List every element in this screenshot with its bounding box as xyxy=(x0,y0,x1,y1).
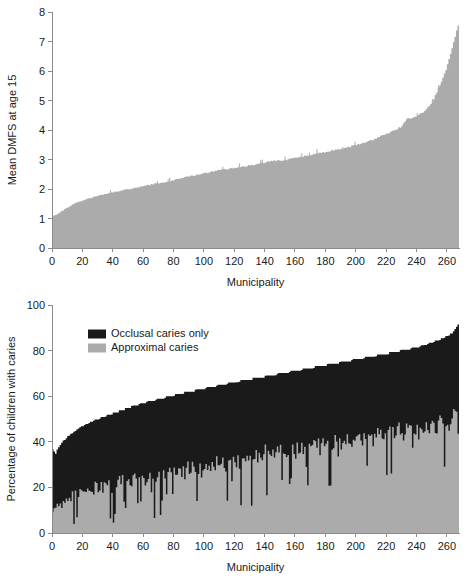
x-tick-label: 80 xyxy=(167,540,179,552)
x-tick-label: 240 xyxy=(407,255,425,267)
x-tick-label: 100 xyxy=(195,255,213,267)
x-tick-label: 20 xyxy=(76,255,88,267)
x-tick-label: 80 xyxy=(167,255,179,267)
legend-label-occlusal: Occlusal caries only xyxy=(111,327,209,339)
chart-legend: Occlusal caries onlyApproximal caries xyxy=(88,327,209,353)
x-tick-label: 220 xyxy=(377,540,395,552)
x-tick-label: 100 xyxy=(195,540,213,552)
y-tick-label: 6 xyxy=(39,65,45,77)
y-tick-label: 0 xyxy=(39,242,45,254)
x-tick-label: 0 xyxy=(49,255,55,267)
x-tick-label: 200 xyxy=(347,255,365,267)
y-tick-label: 20 xyxy=(33,481,45,493)
dmfs-area-series xyxy=(52,26,459,248)
x-tick-label: 200 xyxy=(347,540,365,552)
x-tick-label: 0 xyxy=(49,540,55,552)
x-tick-label: 220 xyxy=(377,255,395,267)
y-tick-label: 100 xyxy=(27,299,45,311)
x-tick-label: 160 xyxy=(286,540,304,552)
x-tick-label: 140 xyxy=(255,255,273,267)
y-tick-label: 5 xyxy=(39,95,45,107)
caries-chart-figure: 0204060801000204060801001201401601802002… xyxy=(0,294,474,588)
x-tick-label: 260 xyxy=(438,255,456,267)
dmfs-chart-canvas: 0123456780204060801001201401601802002202… xyxy=(0,0,474,294)
y-tick-label: 2 xyxy=(39,183,45,195)
x-tick-label: 20 xyxy=(76,540,88,552)
legend-swatch-occlusal xyxy=(88,330,106,339)
y-tick-label: 4 xyxy=(39,124,45,136)
x-tick-label: 160 xyxy=(286,255,304,267)
x-tick-label: 240 xyxy=(407,540,425,552)
x-tick-label: 120 xyxy=(225,540,243,552)
y-tick-label: 60 xyxy=(33,390,45,402)
caries-plot-group: 0204060801000204060801001201401601802002… xyxy=(5,299,460,573)
x-tick-label: 140 xyxy=(255,540,273,552)
y-tick-label: 1 xyxy=(39,213,45,225)
y-tick-label: 8 xyxy=(39,6,45,18)
x-tick-label: 120 xyxy=(225,255,243,267)
y-tick-label: 40 xyxy=(33,436,45,448)
x-tick-label: 60 xyxy=(137,255,149,267)
y-tick-label: 7 xyxy=(39,36,45,48)
dmfs-chart-figure: 0123456780204060801001201401601802002202… xyxy=(0,0,474,294)
y-axis-title: Percentage of children with caries xyxy=(5,336,17,502)
x-tick-label: 180 xyxy=(316,540,334,552)
x-tick-label: 180 xyxy=(316,255,334,267)
x-axis-title: Municipality xyxy=(227,276,285,288)
legend-swatch-approximal xyxy=(88,344,106,353)
legend-label-approximal: Approximal caries xyxy=(111,341,199,353)
y-axis-title: Mean DMFS at age 15 xyxy=(6,75,18,186)
x-tick-label: 40 xyxy=(107,255,119,267)
x-tick-label: 60 xyxy=(137,540,149,552)
x-tick-label: 260 xyxy=(438,540,456,552)
y-tick-label: 3 xyxy=(39,154,45,166)
y-tick-label: 0 xyxy=(39,527,45,539)
y-tick-label: 80 xyxy=(33,345,45,357)
caries-chart-canvas: 0204060801000204060801001201401601802002… xyxy=(0,294,474,588)
dmfs-plot-group: 0123456780204060801001201401601802002202… xyxy=(6,6,460,288)
x-tick-label: 40 xyxy=(107,540,119,552)
x-axis-title: Municipality xyxy=(227,561,285,573)
